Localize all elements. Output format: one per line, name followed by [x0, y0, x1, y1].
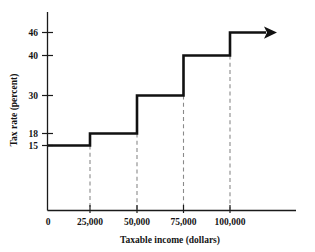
tax-rate-step-chart: 46 40 30 18 15 0 25,000 50,000: [0, 0, 315, 252]
y-tick-label-46: 46: [29, 28, 39, 38]
x-tick-labels: 0 25,000 50,000 75,000 100,000: [46, 217, 246, 227]
x-tick-label-50000: 50,000: [124, 217, 150, 227]
x-tick-label-25000: 25,000: [77, 217, 103, 227]
x-tick-label-75000: 75,000: [170, 217, 196, 227]
y-tick-label-18: 18: [29, 129, 39, 139]
x-axis-title: Taxable income (dollars): [120, 235, 220, 246]
axes-group: [48, 12, 297, 211]
y-axis-title: Tax rate (percent): [9, 74, 20, 147]
tax-rate-step-line: [48, 33, 266, 146]
x-tick-label-100000: 100,000: [215, 217, 246, 227]
y-tick-label-15: 15: [29, 141, 39, 151]
y-tick-labels: 46 40 30 18 15: [29, 28, 39, 151]
y-tick-label-40: 40: [29, 51, 39, 61]
x-tick-label-0: 0: [46, 217, 51, 227]
chart-canvas: 46 40 30 18 15 0 25,000 50,000: [0, 0, 315, 252]
y-tick-label-30: 30: [29, 91, 39, 101]
x-tick-marks: [90, 205, 230, 213]
